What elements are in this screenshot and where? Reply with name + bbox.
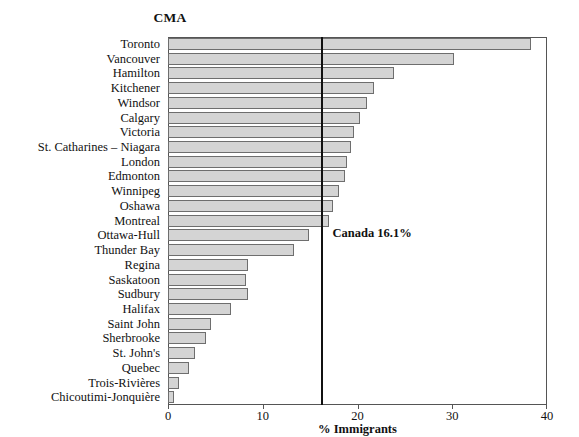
x-axis-title: % Immigrants	[168, 422, 547, 437]
category-label: Chicoutimi-Jonquière	[0, 390, 160, 405]
category-label: Quebec	[0, 361, 160, 376]
canada-reference-label: Canada 16.1%	[333, 226, 412, 241]
bar	[168, 200, 333, 212]
category-label: St. Catharines – Niagara	[0, 140, 160, 155]
category-label: Ottawa-Hull	[0, 228, 160, 243]
bar	[168, 38, 531, 50]
category-label: Winnipeg	[0, 184, 160, 199]
bar	[168, 362, 189, 374]
category-label: London	[0, 155, 160, 170]
bar-row	[168, 155, 547, 170]
bars-container	[168, 37, 547, 405]
bar	[168, 259, 248, 271]
bar-row	[168, 390, 547, 405]
category-label: Sherbrooke	[0, 331, 160, 346]
bar-row	[168, 258, 547, 273]
bar-row	[168, 111, 547, 126]
bar	[168, 53, 454, 65]
category-label: Saskatoon	[0, 273, 160, 288]
bar-row	[168, 331, 547, 346]
bar	[168, 303, 231, 315]
chart-title: CMA	[110, 10, 230, 26]
bar	[168, 288, 248, 300]
canada-reference-line	[321, 37, 323, 405]
bar	[168, 229, 309, 241]
bar-row	[168, 376, 547, 391]
bar	[168, 126, 354, 138]
bar	[168, 244, 294, 256]
category-label: Windsor	[0, 96, 160, 111]
bar	[168, 377, 179, 389]
bar-row	[168, 243, 547, 258]
category-label: Hamilton	[0, 66, 160, 81]
bar	[168, 332, 206, 344]
bar	[168, 82, 374, 94]
category-label: Sudbury	[0, 287, 160, 302]
bar	[168, 97, 367, 109]
bar	[168, 391, 174, 403]
category-label: Trois-Rivières	[0, 376, 160, 391]
category-label: Halifax	[0, 302, 160, 317]
category-label: Oshawa	[0, 199, 160, 214]
bar-row	[168, 37, 547, 52]
category-label: St. John's	[0, 346, 160, 361]
bar-row	[168, 361, 547, 376]
bar-row	[168, 169, 547, 184]
category-label: Regina	[0, 258, 160, 273]
bar-row	[168, 317, 547, 332]
category-axis-labels: TorontoVancouverHamiltonKitchenerWindsor…	[0, 37, 164, 405]
bar	[168, 274, 246, 286]
category-label: Edmonton	[0, 169, 160, 184]
category-label: Victoria	[0, 125, 160, 140]
bar-row	[168, 125, 547, 140]
bar	[168, 318, 211, 330]
bar-row	[168, 81, 547, 96]
bar-row	[168, 140, 547, 155]
bar-row	[168, 199, 547, 214]
category-label: Montreal	[0, 214, 160, 229]
bar	[168, 67, 394, 79]
bar-row	[168, 96, 547, 111]
bar	[168, 141, 351, 153]
bar	[168, 170, 345, 182]
bar-row	[168, 273, 547, 288]
bar-row	[168, 52, 547, 67]
bar	[168, 347, 195, 359]
category-label: Kitchener	[0, 81, 160, 96]
category-label: Thunder Bay	[0, 243, 160, 258]
bar-row	[168, 184, 547, 199]
bar-row	[168, 346, 547, 361]
category-label: Saint John	[0, 317, 160, 332]
bar	[168, 112, 360, 124]
category-label: Calgary	[0, 111, 160, 126]
bar-row	[168, 287, 547, 302]
bar-row	[168, 302, 547, 317]
bar	[168, 185, 339, 197]
bar	[168, 215, 329, 227]
category-label: Toronto	[0, 37, 160, 52]
bar-row	[168, 66, 547, 81]
category-label: Vancouver	[0, 52, 160, 67]
